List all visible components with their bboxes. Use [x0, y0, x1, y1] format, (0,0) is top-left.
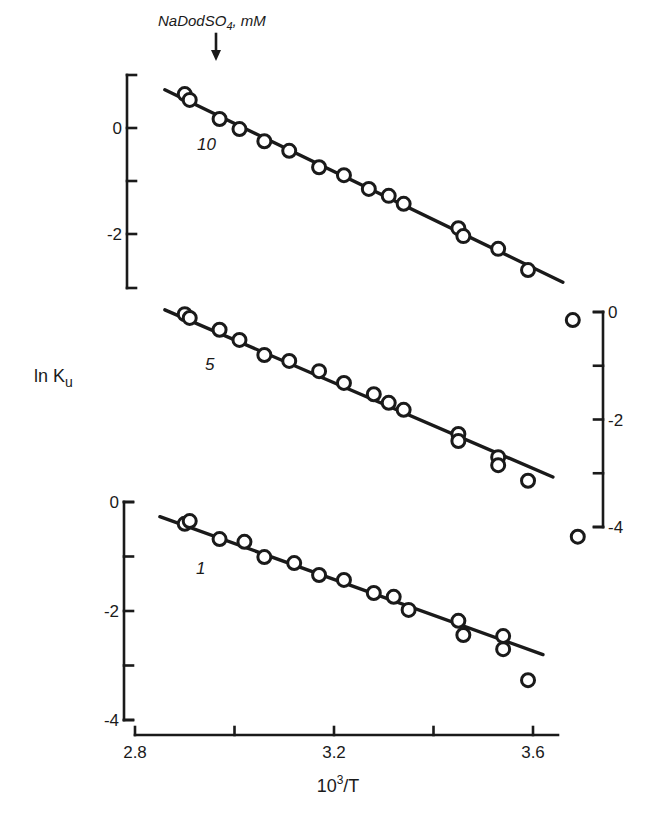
y-axis-10mM: 0-2	[107, 75, 136, 288]
y-tick-label: 0	[608, 303, 617, 322]
data-point	[452, 435, 465, 448]
x-axis-label: 103/T	[317, 773, 360, 796]
data-point	[492, 459, 505, 472]
data-point	[313, 161, 326, 174]
data-point	[367, 388, 380, 401]
data-point	[337, 169, 350, 182]
data-point	[233, 123, 246, 136]
y-tick-label: -4	[104, 711, 119, 730]
data-point	[492, 242, 505, 255]
y-axis-label: ln Ku	[34, 366, 73, 390]
data-point	[213, 533, 226, 546]
x-tick-label: 3.2	[322, 743, 346, 762]
data-point	[283, 354, 296, 367]
y-tick-label: -2	[608, 411, 623, 430]
series-label-10mM: 10	[197, 135, 216, 154]
data-point	[258, 349, 271, 362]
data-point	[522, 474, 535, 487]
labels: 1051103/Tln KuNaDodSO4, mM	[34, 12, 359, 796]
data-point	[522, 674, 535, 687]
data-point	[571, 530, 584, 543]
y-tick-label: -2	[104, 602, 119, 621]
data-point	[313, 569, 326, 582]
data-point	[402, 603, 415, 616]
series-label-5mM: 5	[205, 355, 215, 374]
y-axis-5mM: 0-2-4	[594, 303, 623, 537]
data-point	[258, 551, 271, 564]
data-point	[457, 230, 470, 243]
data-point	[397, 197, 410, 210]
data-point	[183, 93, 196, 106]
annotation-label: NaDodSO4, mM	[158, 12, 266, 32]
series-label-1mM: 1	[196, 559, 205, 578]
y-tick-label: 0	[110, 493, 119, 512]
data-point	[382, 396, 395, 409]
data-point	[497, 643, 510, 656]
data-point	[382, 189, 395, 202]
data-point	[238, 535, 251, 548]
data-point	[457, 628, 470, 641]
data-point	[283, 144, 296, 157]
data-point	[213, 323, 226, 336]
y-tick-label: -2	[107, 225, 122, 244]
x-tick-label: 3.6	[521, 743, 545, 762]
arrow-icon	[211, 34, 221, 61]
data-point	[387, 590, 400, 603]
arrhenius-plot: 0-20-2-40-2-42.83.23.6 1051103/Tln KuNaD…	[0, 0, 662, 831]
data-point	[522, 264, 535, 277]
x-axis: 2.83.23.6	[123, 727, 558, 762]
data-point	[183, 515, 196, 528]
data-point	[313, 365, 326, 378]
data-point	[183, 311, 196, 324]
y-axis-1mM: 0-2-4	[104, 493, 133, 730]
fit-lines	[160, 90, 563, 655]
data-point	[213, 112, 226, 125]
data-point	[337, 376, 350, 389]
data-point	[288, 557, 301, 570]
data-point	[362, 182, 375, 195]
axes: 0-20-2-40-2-42.83.23.6	[104, 75, 623, 762]
data-point	[452, 614, 465, 627]
y-tick-label: -4	[608, 518, 623, 537]
data-point	[397, 403, 410, 416]
data-point	[233, 333, 246, 346]
data-point	[497, 630, 510, 643]
data-point	[367, 587, 380, 600]
x-tick-label: 2.8	[123, 743, 147, 762]
data-point	[566, 314, 579, 327]
data-point	[337, 573, 350, 586]
y-tick-label: 0	[113, 119, 122, 138]
data-point	[258, 135, 271, 148]
